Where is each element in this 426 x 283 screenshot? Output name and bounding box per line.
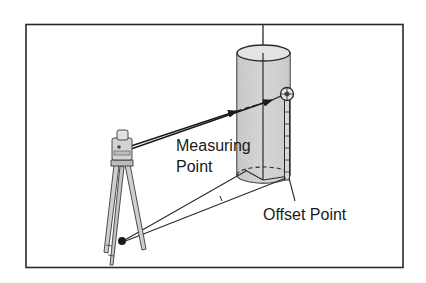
- diagram-canvas: Measuring Point Offset Point: [0, 0, 426, 283]
- measuring-point-label-line1: Measuring: [176, 137, 251, 155]
- ground-point: [118, 237, 126, 245]
- cylinder-target: [237, 45, 290, 183]
- total-station-icon: [112, 130, 132, 160]
- offset-leader-line: [289, 178, 295, 201]
- tripod: [104, 160, 146, 265]
- measuring-point-label-line2: Point: [176, 158, 212, 176]
- offset-point-label: Offset Point: [263, 206, 346, 224]
